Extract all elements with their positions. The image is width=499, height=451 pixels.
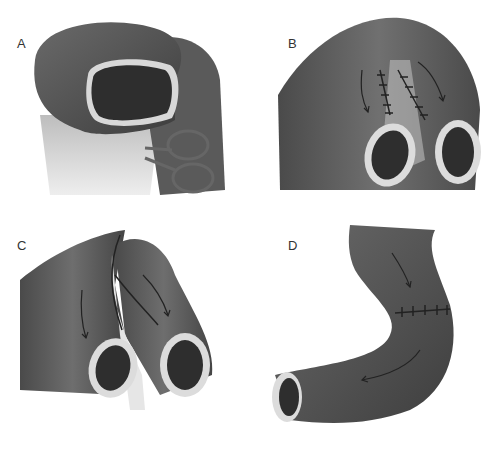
bowel-lumen-illustration bbox=[0, 0, 250, 225]
panel-d: D bbox=[250, 225, 499, 450]
side-by-side-limbs-illustration bbox=[250, 0, 499, 225]
panel-a: A bbox=[0, 0, 250, 225]
panel-b: B bbox=[250, 0, 499, 225]
divided-limbs-illustration bbox=[0, 225, 250, 451]
panel-c: C bbox=[0, 225, 250, 450]
reconstructed-bowel-illustration bbox=[250, 225, 499, 451]
